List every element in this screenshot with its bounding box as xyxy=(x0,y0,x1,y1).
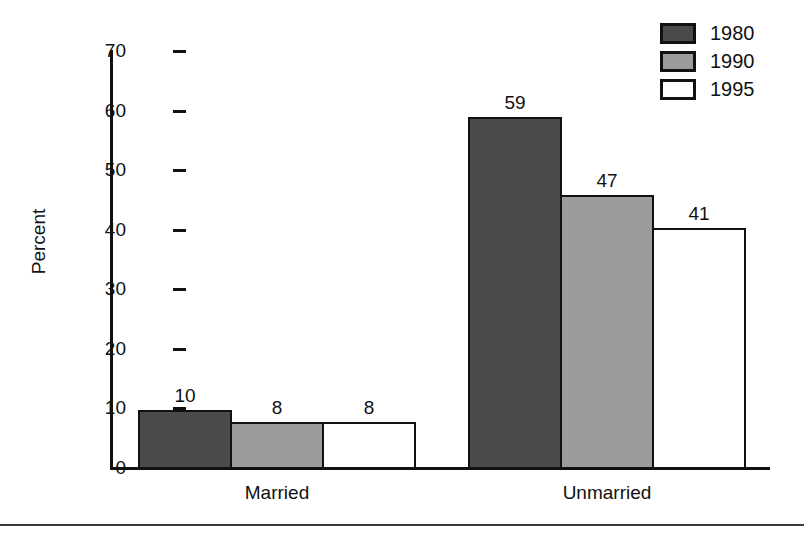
y-tick-40: 40 xyxy=(60,229,126,232)
bar-unmarried-1980 xyxy=(468,117,562,469)
bar-value-label: 8 xyxy=(230,398,324,417)
legend-label-1990: 1990 xyxy=(710,51,755,71)
legend-item-1980[interactable]: 1980 xyxy=(660,22,755,44)
y-tick-label-30: 30 xyxy=(86,279,126,298)
y-tick-mark-20 xyxy=(173,348,186,351)
bar-value-label: 41 xyxy=(652,204,746,223)
y-tick-label-70: 70 xyxy=(86,41,126,60)
y-tick-0: 0 xyxy=(60,467,126,470)
legend-item-1995[interactable]: 1995 xyxy=(660,78,755,100)
legend-swatch-1990-icon xyxy=(660,51,696,72)
y-tick-10: 10 xyxy=(60,407,126,410)
bar-unmarried-1990 xyxy=(560,195,654,469)
legend-label-1980: 1980 xyxy=(710,23,755,43)
y-tick-mark-70 xyxy=(173,50,186,53)
bar-chart: Percent 70 60 50 40 30 20 10 0 10 8 8 Ma… xyxy=(0,0,804,537)
bar-married-1990 xyxy=(230,422,324,469)
y-tick-60: 60 xyxy=(60,110,126,113)
legend-swatch-1995-icon xyxy=(660,79,696,100)
y-tick-mark-60 xyxy=(173,110,186,113)
bar-unmarried-1995 xyxy=(652,228,746,469)
x-category-label-unmarried: Unmarried xyxy=(515,483,699,502)
bar-value-label: 8 xyxy=(322,398,416,417)
bar-married-1995 xyxy=(322,422,416,469)
y-tick-mark-50 xyxy=(173,169,186,172)
y-tick-30: 30 xyxy=(60,288,126,291)
y-tick-label-0: 0 xyxy=(86,458,126,477)
y-tick-mark-40 xyxy=(173,229,186,232)
legend-label-1995: 1995 xyxy=(710,79,755,99)
bar-value-label: 59 xyxy=(468,93,562,112)
y-tick-20: 20 xyxy=(60,348,126,351)
bar-value-label: 10 xyxy=(138,386,232,405)
y-tick-70: 70 xyxy=(60,50,126,53)
bar-value-label: 47 xyxy=(560,171,654,190)
legend-swatch-1980-icon xyxy=(660,23,696,44)
legend-item-1990[interactable]: 1990 xyxy=(660,50,755,72)
y-tick-mark-30 xyxy=(173,288,186,291)
bar-married-1980 xyxy=(138,410,232,469)
y-axis-title: Percent xyxy=(29,192,48,292)
y-tick-label-60: 60 xyxy=(86,101,126,120)
x-category-label-married: Married xyxy=(185,483,369,502)
y-tick-label-10: 10 xyxy=(86,398,126,417)
y-tick-50: 50 xyxy=(60,169,126,172)
y-tick-label-40: 40 xyxy=(86,220,126,239)
y-tick-label-50: 50 xyxy=(86,160,126,179)
y-tick-label-20: 20 xyxy=(86,339,126,358)
footer-divider xyxy=(0,524,804,526)
